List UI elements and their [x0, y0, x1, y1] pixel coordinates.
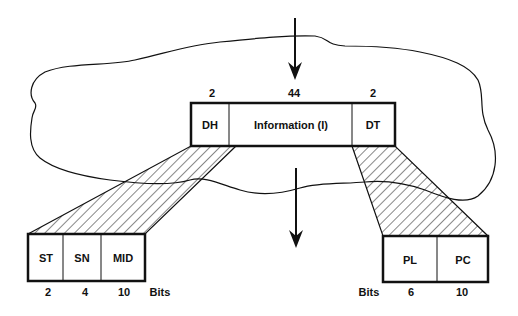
- field-label-st: ST: [39, 252, 53, 264]
- diagram-canvas: DH Information (I) DT 2 44 2 ST SN MID 2…: [0, 0, 518, 316]
- trailer-expansion-hatch: [352, 146, 488, 236]
- bits-mid: 10: [118, 286, 130, 298]
- field-label-information: Information (I): [254, 119, 328, 131]
- field-label-dt: DT: [366, 119, 381, 131]
- trailer-expansion: PL PC Bits 6 10: [359, 236, 488, 298]
- top-frame: DH Information (I) DT 2 44 2: [191, 87, 395, 146]
- bits-dh: 2: [209, 87, 215, 99]
- bits-information: 44: [288, 87, 301, 99]
- bits-pc: 10: [456, 286, 468, 298]
- arrow-down-icon: [288, 18, 302, 80]
- bits-unit-label: Bits: [150, 286, 171, 298]
- field-label-dh: DH: [202, 119, 218, 131]
- field-label-sn: SN: [74, 252, 89, 264]
- bits-unit-label: Bits: [359, 286, 380, 298]
- field-label-mid: MID: [113, 252, 133, 264]
- field-label-pc: PC: [455, 254, 470, 266]
- bits-st: 2: [45, 286, 51, 298]
- field-label-pl: PL: [403, 254, 417, 266]
- arrow-down-icon: [289, 168, 303, 248]
- header-expansion-hatch: [28, 146, 236, 234]
- bits-sn: 4: [82, 286, 89, 298]
- header-expansion: ST SN MID 2 4 10 Bits: [28, 234, 170, 298]
- bits-dt: 2: [370, 87, 376, 99]
- bits-pl: 6: [408, 286, 414, 298]
